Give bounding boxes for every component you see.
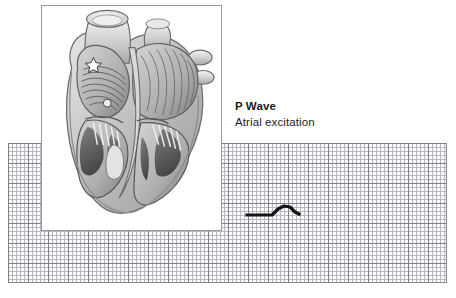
papillary-muscle [106, 145, 124, 179]
caption-title: P Wave [235, 99, 425, 114]
heart-cross-section-icon [42, 6, 221, 230]
pulmonary-artery-lumen [146, 19, 170, 29]
heart-illustration-panel [41, 5, 222, 231]
vessel-inner-lumen [92, 15, 122, 26]
caption-block: P Wave Atrial excitation [235, 99, 425, 130]
left-atrium-cavity [133, 44, 198, 120]
atrioventricular-node-marker [103, 99, 111, 107]
ecg-p-wave-figure: P Wave Atrial excitation [0, 0, 456, 298]
caption-subtitle: Atrial excitation [235, 114, 425, 130]
